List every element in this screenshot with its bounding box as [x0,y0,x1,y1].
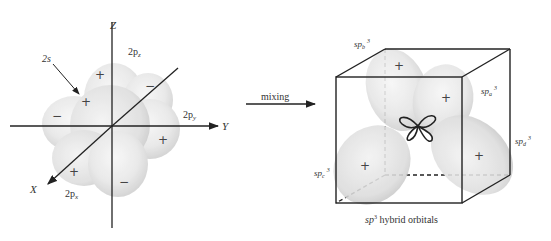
mixing-label: mixing [261,91,289,102]
sp3-a-label: spa3 [481,85,497,97]
px-back-sign: − [145,79,155,93]
pz-lobe-bottom [88,131,148,197]
py-label: 2py [183,109,197,122]
hybrid-orbitals-figure: + + + + spb3 spa3 spd3 spc3 sp3 hybrid o… [314,38,531,225]
sp3-c-sign: + [360,159,370,173]
x-axis-label: X [29,183,38,195]
orbital-lobes [42,63,180,197]
sp3-b-sign: + [394,59,404,73]
hybrid-orbitals-caption: sp3 hybrid orbitals [365,214,438,225]
pz-top-sign: + [95,68,105,82]
s-orbital-label: 2s [42,53,51,64]
px-front-sign: + [69,165,79,179]
s-sign: + [81,95,91,109]
sp3-d-label: spd3 [515,135,531,147]
px-label: 2px [65,188,79,201]
sp3-d-sign: + [474,149,484,163]
cube-top-right-edge [462,49,510,77]
y-axis-label: Y [222,120,230,132]
hybrid-lobes [317,41,529,221]
py-right-sign: + [158,133,168,147]
orbital-mixing-diagram: Z Y X 2s 2pz 2py 2px + − + − + + − mixin… [0,0,551,241]
s-pointer-arrow [53,64,79,94]
z-axis-label: Z [110,19,117,31]
mixing-transition: mixing [246,91,315,104]
sp3-b-label: spb3 [354,38,370,50]
pz-bottom-sign: − [119,175,129,189]
pz-label: 2pz [128,46,141,59]
sp3-a-sign: + [441,91,451,105]
py-left-sign: − [52,109,62,123]
sp3-c-label: spc3 [314,167,330,179]
atomic-orbitals-figure: Z Y X 2s 2pz 2py 2px + − + − + + − [10,19,230,228]
